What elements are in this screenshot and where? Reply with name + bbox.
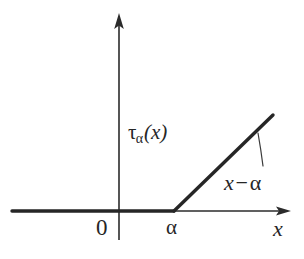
alpha-tick-label: α bbox=[166, 217, 177, 238]
origin-label: 0 bbox=[96, 216, 108, 239]
function-rising-branch bbox=[174, 115, 273, 211]
annotation-minus-sign: − bbox=[236, 170, 249, 195]
figure-container: τα(x) x−α 0 α x bbox=[0, 0, 304, 259]
function-label-subscript: α bbox=[136, 131, 143, 146]
annotation-leader-line bbox=[258, 133, 263, 166]
annotation-alpha: α bbox=[250, 170, 262, 195]
slope-annotation-label: x−α bbox=[224, 172, 262, 194]
function-label: τα(x) bbox=[128, 122, 167, 146]
annotation-variable: x bbox=[224, 170, 234, 195]
function-label-argument: (x) bbox=[144, 120, 167, 144]
x-axis-label: x bbox=[273, 218, 283, 240]
